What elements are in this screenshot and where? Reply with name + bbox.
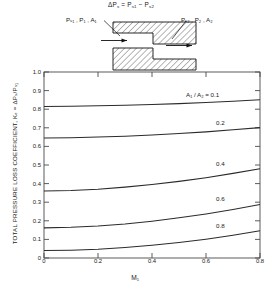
inlet-flow-arrow: [101, 39, 127, 43]
duct-drawing: [0, 0, 270, 72]
plot-canvas: [0, 68, 270, 293]
curve-label-0.1: A₁ / A₂ = 0.1: [186, 91, 219, 98]
curve-label-0.4: 0.4: [216, 160, 225, 167]
duct-schematic: ΔPs = Ps1 − Ps2 Pₛ₁ , P₁ , A₁ Pₛ₂ , P₂ ,…: [0, 0, 270, 72]
pressure-loss-chart: TOTAL PRESSURE LOSS COEFFICIENT, Kₑ = ΔP…: [0, 68, 270, 293]
curve-label-0.2: 0.2: [216, 119, 225, 126]
curve-label-0.6: 0.6: [216, 195, 225, 202]
lower-duct-wall: [113, 48, 196, 70]
plot-frame: [44, 72, 260, 258]
curve-label-0.8: 0.8: [216, 222, 225, 229]
